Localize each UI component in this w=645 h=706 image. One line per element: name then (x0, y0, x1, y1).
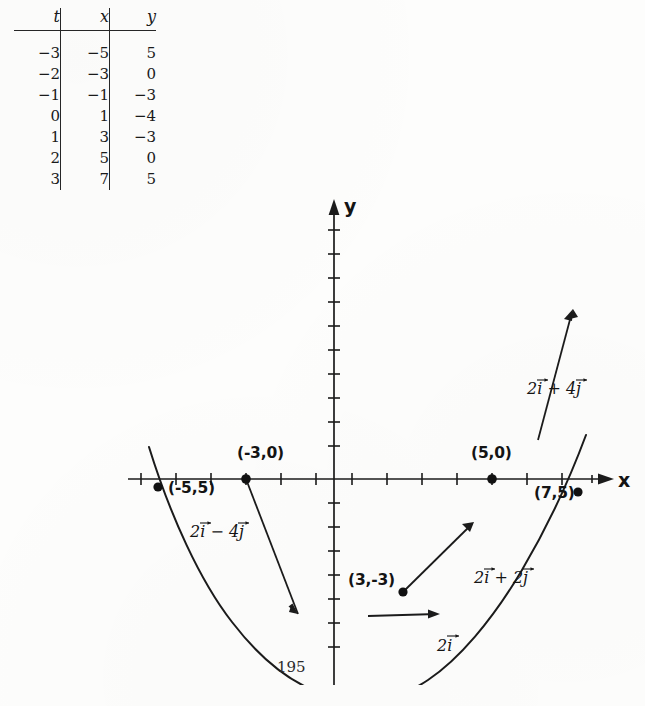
table-body: −3−55−2−30−1−1−301−413−3250375 (14, 31, 156, 191)
vec-coef2: 4 (565, 379, 576, 398)
vector-label-2i: 2i (436, 634, 459, 655)
data-point-7-5 (573, 487, 582, 496)
table-cell-t: 1 (14, 127, 61, 148)
point-label-7-5: (7,5) (534, 484, 575, 502)
table-row: 01−4 (14, 106, 156, 127)
y-axis-arrowhead (329, 199, 340, 215)
vec-accent-j-head (531, 567, 535, 571)
table-cell-x: 1 (61, 106, 110, 127)
x-axis-label: x (618, 469, 630, 491)
table-cell-y: −4 (110, 106, 157, 127)
vec-coef2: 2 (512, 568, 523, 587)
document-page: t x y −3−55−2−30−1−1−301−413−3250375 (0, 0, 645, 706)
table-cell-t: −2 (14, 64, 61, 85)
table-cell-x: 3 (61, 127, 110, 148)
point-labels-group: (-5,5) (-3,0) (5,0) (7,5) (3,-3) (1,-4) (168, 444, 575, 685)
table-cell-t: 0 (14, 106, 61, 127)
curve-path (149, 435, 586, 685)
vector-label-2i-plus-4j: 2i + 4j (526, 378, 587, 398)
graph-svg: y x (0, 185, 645, 685)
vec-accent-j-head (246, 521, 250, 525)
table-row: −2−30 (14, 64, 156, 85)
parametric-table-block: t x y −3−55−2−30−1−1−301−413−3250375 (14, 8, 174, 190)
table-cell-t: −3 (14, 31, 61, 65)
vector-arrowhead (428, 610, 440, 619)
vector-label-2i-plus-2j: 2i + 2j (473, 567, 534, 587)
vector-label-2i-minus-4j: 2i − 4j (189, 521, 249, 541)
vec-i: i (447, 636, 452, 655)
vec-coef: 2 (189, 522, 200, 541)
data-point-3-neg3 (398, 587, 407, 596)
table-cell-t: −1 (14, 85, 61, 106)
table-cell-x: −1 (61, 85, 110, 106)
vector-shaft (538, 312, 572, 440)
table-cell-x: −3 (61, 64, 110, 85)
point-label-5-0: (5,0) (471, 444, 512, 462)
vec-accent-j-head (584, 378, 588, 382)
vec-coef: 2 (436, 636, 447, 655)
table-cell-y: 0 (110, 148, 157, 169)
vector-shaft (246, 479, 298, 614)
tangent-vectors-group (246, 309, 578, 619)
table-row: 13−3 (14, 127, 156, 148)
table-head: t x y (14, 8, 156, 31)
tangent-vector-at-neg3-0 (246, 479, 298, 614)
vec-coef2: 4 (228, 522, 239, 541)
table-cell-t: 2 (14, 148, 61, 169)
vec-coef: 2 (526, 379, 537, 398)
column-header-x: x (61, 8, 110, 31)
data-point-neg3-0 (241, 474, 251, 484)
axes-group: y x (128, 195, 630, 685)
x-axis-arrowhead (598, 474, 614, 485)
vec-op: − (205, 522, 229, 541)
tangent-vector-at-3-neg3 (403, 522, 474, 592)
parametric-curve-graph: y x (0, 185, 645, 685)
point-label-3-neg3: (3,-3) (348, 571, 395, 589)
table-row: 250 (14, 148, 156, 169)
vector-shaft (368, 614, 437, 616)
tangent-vector-at-1-neg4 (368, 610, 440, 619)
table-row: −3−55 (14, 31, 156, 65)
svg-text:2i + 4j: 2i + 4j (526, 379, 581, 398)
vector-arrowhead (462, 522, 474, 532)
table-cell-y: −3 (110, 85, 157, 106)
tangent-vector-at-7-5 (538, 309, 578, 440)
table-cell-y: 0 (110, 64, 157, 85)
y-axis-label: y (344, 195, 357, 217)
parametric-table: t x y −3−55−2−30−1−1−301−413−3250375 (14, 8, 156, 190)
svg-text:2i: 2i (436, 636, 452, 655)
vec-op: + (542, 379, 566, 398)
vec-coef: 2 (473, 568, 484, 587)
data-point-5-0 (487, 474, 497, 484)
column-header-t: t (14, 8, 61, 31)
page-number: 195 (277, 658, 306, 676)
table-cell-x: −5 (61, 31, 110, 65)
column-header-y: y (110, 8, 157, 31)
point-label-neg3-0: (-3,0) (237, 444, 284, 462)
vec-op: + (489, 568, 513, 587)
svg-text:2i + 2j: 2i + 2j (473, 568, 528, 587)
table-row: −1−1−3 (14, 85, 156, 106)
vector-labels-group: 2i − 4j 2i (189, 378, 587, 655)
table-cell-y: −3 (110, 127, 157, 148)
table-header-row: t x y (14, 8, 156, 31)
point-label-neg5-5: (-5,5) (168, 479, 215, 497)
table-cell-y: 5 (110, 31, 157, 65)
vector-shaft (403, 524, 472, 592)
vec-accent-i-head (456, 634, 460, 638)
parabola-curve (149, 435, 586, 685)
data-point-neg5-5 (153, 482, 162, 491)
svg-text:2i − 4j: 2i − 4j (189, 522, 244, 541)
table-cell-x: 5 (61, 148, 110, 169)
